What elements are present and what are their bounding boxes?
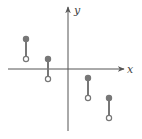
y-axis-label: y <box>73 4 81 17</box>
closed-dot <box>106 95 111 100</box>
open-dot <box>23 56 28 61</box>
closed-dot <box>85 75 90 80</box>
open-dot <box>45 76 50 81</box>
open-dot <box>106 115 111 120</box>
open-dot <box>85 95 90 100</box>
x-axis-label: x <box>127 63 134 76</box>
graph-diagram: x y <box>0 0 142 139</box>
closed-dot <box>45 56 50 61</box>
closed-dot <box>23 36 28 41</box>
